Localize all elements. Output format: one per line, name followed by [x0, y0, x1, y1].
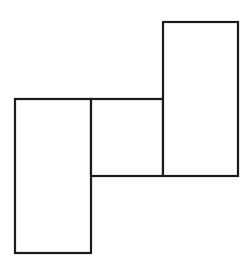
staircase-rectangles-diagram	[0, 0, 252, 269]
left-tall-rectangle	[15, 99, 91, 253]
right-tall-rectangle	[163, 22, 238, 176]
middle-square	[91, 99, 163, 176]
